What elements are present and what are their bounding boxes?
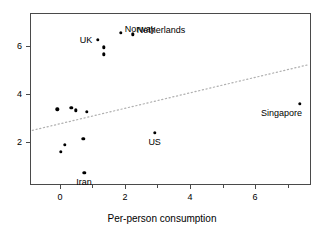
y-tick-mark bbox=[26, 46, 30, 47]
plot-area-frame bbox=[30, 13, 311, 185]
x-tick-label: 6 bbox=[248, 193, 262, 202]
y-tick-mark bbox=[26, 94, 30, 95]
x-tick-mark bbox=[190, 185, 191, 189]
y-tick-label: 4 bbox=[8, 90, 22, 99]
y-tick-label: 2 bbox=[8, 137, 22, 146]
y-tick-label: 6 bbox=[8, 42, 22, 51]
x-tick-label: 4 bbox=[183, 193, 197, 202]
x-minor-tick-mark bbox=[157, 185, 158, 188]
x-tick-mark bbox=[255, 185, 256, 189]
data-point-label: Iran bbox=[76, 178, 92, 187]
data-point-label: Netherlands bbox=[137, 26, 186, 35]
x-tick-mark bbox=[125, 185, 126, 189]
x-tick-label: 0 bbox=[53, 193, 67, 202]
data-point-label: US bbox=[148, 138, 161, 147]
x-axis-label: Per-person consumption bbox=[0, 213, 324, 224]
scatter-plot-figure: 246 0246 UKNorwayNetherlandsIranUSSingap… bbox=[0, 0, 324, 236]
x-tick-mark bbox=[60, 185, 61, 189]
x-minor-tick-mark bbox=[223, 185, 224, 188]
x-minor-tick-mark bbox=[92, 185, 93, 188]
data-point-label: Singapore bbox=[261, 109, 302, 118]
x-tick-label: 2 bbox=[118, 193, 132, 202]
x-minor-tick-mark bbox=[288, 185, 289, 188]
data-point-label: UK bbox=[80, 36, 93, 45]
y-tick-mark bbox=[26, 142, 30, 143]
